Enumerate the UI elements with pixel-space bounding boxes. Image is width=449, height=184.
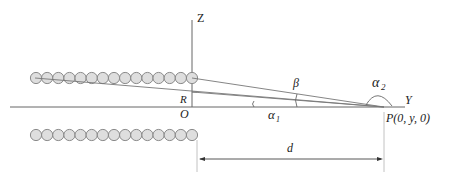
bead-circle bbox=[120, 72, 131, 83]
z-axis-label: Z bbox=[197, 11, 204, 25]
bead-circle bbox=[142, 72, 153, 83]
bead-circle bbox=[97, 129, 108, 140]
bead-circle bbox=[53, 129, 64, 140]
upper-bead-row bbox=[30, 72, 197, 83]
alpha1-subscript: 1 bbox=[276, 115, 280, 124]
ray-radius bbox=[192, 92, 384, 107]
ray-to-near-end bbox=[192, 78, 384, 107]
bead-circle bbox=[175, 72, 186, 83]
bead-circle bbox=[42, 72, 53, 83]
beta-label: β bbox=[292, 76, 299, 90]
bead-circle bbox=[64, 72, 75, 83]
bead-circle bbox=[164, 129, 175, 140]
bead-circle bbox=[153, 129, 164, 140]
bead-circle bbox=[108, 72, 119, 83]
bead-circle bbox=[120, 129, 131, 140]
bead-circle bbox=[131, 72, 142, 83]
y-axis-label: Y bbox=[405, 93, 413, 107]
alpha1-symbol: α bbox=[268, 107, 276, 122]
bead-circle bbox=[86, 72, 97, 83]
bead-circle bbox=[164, 72, 175, 83]
bead-circle bbox=[131, 129, 142, 140]
bead-circle bbox=[53, 72, 64, 83]
alpha1-label: α 1 bbox=[268, 107, 280, 124]
bead-circle bbox=[97, 72, 108, 83]
point-p-label: P(0, y, 0) bbox=[385, 111, 430, 125]
radius-label: R bbox=[179, 93, 187, 105]
arrowhead-right-icon bbox=[377, 157, 383, 161]
alpha2-symbol: α bbox=[372, 75, 380, 90]
bead-circle bbox=[75, 129, 86, 140]
bead-circle bbox=[86, 129, 97, 140]
bead-circle bbox=[64, 129, 75, 140]
alpha2-label: α 2 bbox=[372, 75, 386, 92]
bead-circle bbox=[153, 72, 164, 83]
bead-circle bbox=[108, 129, 119, 140]
bead-circle bbox=[142, 129, 153, 140]
alpha1-arc bbox=[253, 101, 255, 107]
origin-label: O bbox=[180, 107, 189, 121]
diagram-canvas: Z Y O R P(0, y, 0) d β α 1 α 2 bbox=[0, 0, 449, 184]
bead-circle bbox=[42, 129, 53, 140]
bead-circle bbox=[30, 129, 41, 140]
bead-circle bbox=[175, 129, 186, 140]
distance-d-label: d bbox=[287, 141, 294, 155]
alpha2-subscript: 2 bbox=[381, 82, 386, 92]
arrowhead-left-icon bbox=[199, 157, 205, 161]
bead-circle bbox=[186, 129, 197, 140]
lower-bead-row bbox=[30, 129, 197, 140]
